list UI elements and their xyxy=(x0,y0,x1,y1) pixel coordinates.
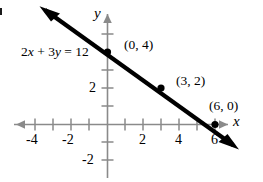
equation-equals: = xyxy=(61,44,75,59)
y-axis-label: y xyxy=(94,6,101,21)
graph-figure: y x -4 -2 2 4 6 2 -2 2x + 3y = 12 (0, 4)… xyxy=(0,0,263,182)
y-axis xyxy=(102,14,114,178)
x-axis-arrow-left xyxy=(16,120,25,129)
x-axis-arrow-right xyxy=(219,120,228,129)
y-tick-label-2: 2 xyxy=(89,81,96,95)
point-label-0-4: (0, 4) xyxy=(124,38,153,52)
point-label-3-2: (3, 2) xyxy=(176,74,205,88)
x-tick-label-2: 2 xyxy=(139,133,146,147)
point-label-6-0: (6, 0) xyxy=(209,99,238,113)
x-tick-label-6: 6 xyxy=(211,133,218,147)
equation-label: 2x + 3y = 12 xyxy=(21,45,89,59)
x-axis-label: x xyxy=(233,114,240,129)
equation-coeff-x: 2 xyxy=(21,44,28,59)
equation-plus: + xyxy=(34,44,48,59)
data-point-3-2 xyxy=(157,84,164,91)
x-tick-label-neg2: -2 xyxy=(62,133,74,147)
y-tick-label-neg2: -2 xyxy=(82,153,94,167)
x-tick-label-4: 4 xyxy=(175,133,182,147)
data-point-0-4 xyxy=(104,48,111,55)
y-axis-arrow-up xyxy=(103,14,112,23)
data-point-6-0 xyxy=(211,121,218,128)
equation-rhs: 12 xyxy=(75,44,89,59)
plotted-line xyxy=(40,6,240,149)
x-tick-label-neg4: -4 xyxy=(26,133,38,147)
coordinate-plane xyxy=(0,0,263,182)
equation-coeff-y: 3 xyxy=(48,44,55,59)
